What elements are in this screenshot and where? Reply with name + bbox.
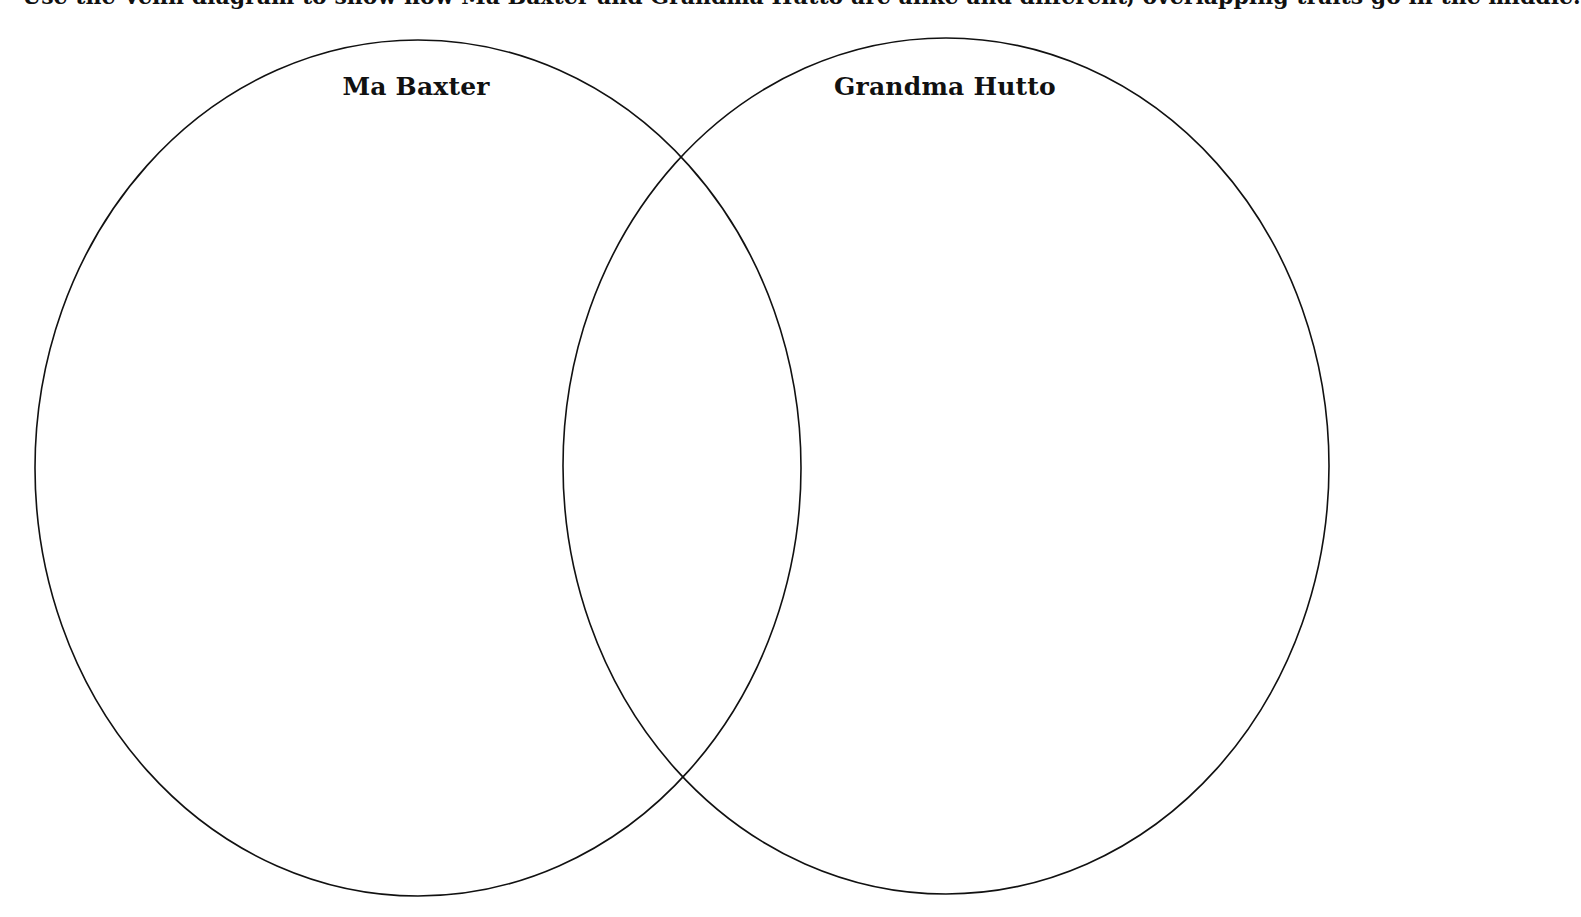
- set-label-grandma-hutto: Grandma Hutto: [834, 72, 1056, 101]
- set-label-ma-baxter: Ma Baxter: [342, 72, 489, 101]
- region-ma-baxter-only[interactable]: [90, 140, 550, 800]
- region-grandma-hutto-only[interactable]: [815, 140, 1275, 800]
- region-overlap-both[interactable]: [575, 200, 790, 740]
